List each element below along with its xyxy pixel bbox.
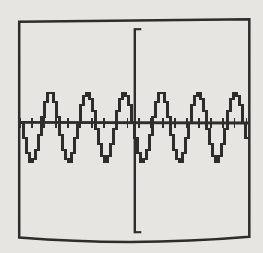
calculator-screen-figure bbox=[0, 0, 263, 253]
scanned-page bbox=[0, 0, 263, 253]
paper-grain-texture bbox=[0, 0, 263, 253]
